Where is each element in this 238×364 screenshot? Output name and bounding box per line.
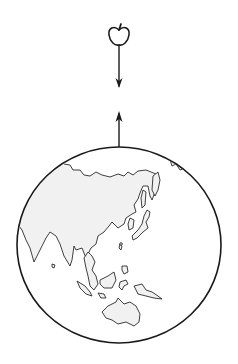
sri-lanka (52, 264, 55, 268)
philippines (122, 266, 128, 274)
illustration: apple force on apple (downward) force on… (0, 0, 238, 364)
